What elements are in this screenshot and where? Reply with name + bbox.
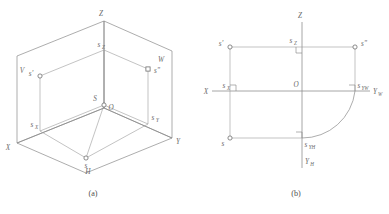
svg-text:YW: YW (361, 85, 369, 91)
diagram-a-group: Z X Y V W H O S s' s" s s Z s X (5, 10, 181, 176)
label-point-S-a: S (93, 95, 97, 103)
diagram-b-group: Z X Y W Y H O s' s" s s Z (203, 12, 383, 168)
construction-lines-b (230, 47, 355, 138)
label-plane-v-a: V (20, 66, 26, 75)
point-s-double-prime-marker-b (353, 45, 357, 49)
label-trace-sz-b: s Z (290, 37, 297, 46)
right-angle-mark-syh (296, 132, 302, 138)
point-s-marker-a (84, 156, 88, 160)
svg-text:Z: Z (102, 44, 105, 50)
label-point-s-prime-b: s' (219, 40, 224, 48)
caption-a: (a) (88, 189, 97, 198)
label-axis-y-a: Y (176, 138, 181, 146)
label-point-s-prime-a: s' (29, 70, 34, 78)
svg-text:W: W (378, 91, 383, 97)
point-s-prime-marker-a (38, 74, 42, 78)
svg-text:s: s (305, 141, 308, 149)
label-trace-syw-b: s YW (358, 82, 370, 91)
label-point-s-double-prime-b: s" (361, 40, 368, 48)
right-angle-mark-sz (296, 47, 302, 53)
right-angle-mark-syw (349, 85, 355, 91)
svg-text:Z: Z (294, 40, 297, 46)
point-markers-a (38, 67, 150, 160)
svg-text:s: s (98, 41, 101, 49)
construction-lines-a (40, 50, 148, 158)
point-s-marker-b (228, 136, 232, 140)
figure-root: Z X Y V W H O S s' s" s s Z s X (0, 0, 389, 214)
label-origin-a: O (108, 104, 114, 112)
label-point-s-double-prime-a: s" (154, 67, 161, 75)
svg-text:s: s (223, 82, 226, 90)
labels-a: Z X Y V W H O S s' s" s s Z s X (5, 10, 181, 176)
plane-w-outline (104, 21, 172, 138)
label-axis-yh-b: Y H (305, 158, 314, 167)
label-trace-sx-a: s X (31, 121, 39, 130)
caption-b: (b) (291, 189, 301, 198)
label-axis-x-a: X (5, 144, 11, 152)
svg-text:s: s (31, 121, 34, 129)
label-axis-yw-b: Y W (373, 88, 383, 97)
point-S-marker-a (102, 103, 106, 107)
svg-text:X: X (34, 124, 39, 130)
plane-h-outline (17, 138, 172, 173)
label-point-s-b: s (222, 140, 225, 148)
label-plane-w-a: W (158, 55, 165, 64)
svg-text:s: s (152, 114, 155, 122)
transfer-arc-b (302, 91, 355, 138)
svg-text:s: s (358, 82, 361, 90)
svg-text:Y: Y (156, 117, 160, 123)
label-axis-z-a: Z (99, 10, 104, 18)
point-s-prime-marker-b (228, 45, 232, 49)
right-angle-mark-sx (230, 85, 236, 91)
label-axis-x-b: X (203, 88, 209, 96)
labels-b: Z X Y W Y H O s' s" s s Z (203, 12, 383, 167)
label-point-s-a: s (85, 162, 88, 170)
label-axis-z-b: Z (298, 12, 303, 20)
label-trace-sx-b: s X (223, 82, 231, 91)
label-trace-syh-b: s YH (305, 141, 316, 150)
label-trace-sy-a: s Y (152, 114, 160, 123)
technical-drawing-svg: Z X Y V W H O S s' s" s s Z s X (0, 0, 389, 214)
right-angle-marks-b (230, 47, 355, 138)
svg-text:YH: YH (309, 144, 316, 150)
point-markers-b (228, 45, 357, 140)
point-s-double-prime-marker-a (146, 67, 150, 71)
svg-text:s: s (290, 37, 293, 45)
svg-text:H: H (309, 161, 314, 167)
label-origin-b: O (293, 81, 299, 89)
